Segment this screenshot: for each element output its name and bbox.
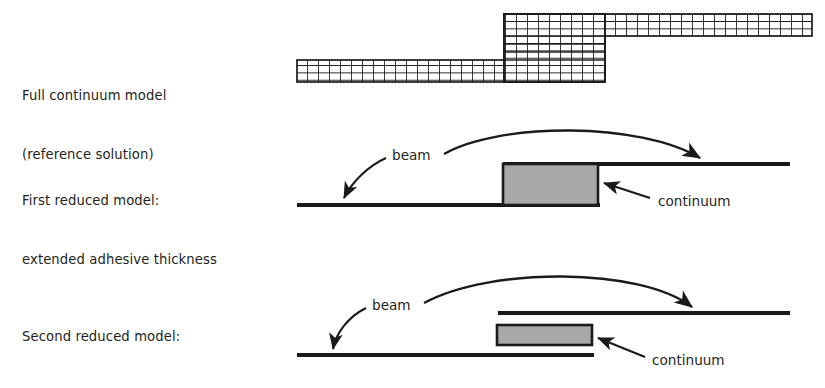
panel-first-reduced: First reduced model: extended adhesive t… — [0, 130, 825, 265]
continuum-block — [503, 164, 598, 205]
beam-arrow-upper — [424, 276, 692, 307]
full-continuum-mesh-art — [0, 0, 825, 130]
beam-arrow-lower — [344, 158, 386, 198]
first-reduced-model-art: beam continuum — [0, 130, 825, 265]
beam-arrow-lower — [333, 308, 366, 349]
annotation-beam-label: beam — [372, 297, 411, 313]
annotation-beam-label: beam — [392, 147, 431, 163]
panel-second-reduced: Second reduced model: actual adhesive th… — [0, 265, 825, 388]
figure-canvas: Full continuum model (reference solution… — [0, 0, 825, 388]
beam-arrow-upper — [444, 130, 700, 158]
annotation-continuum-label: continuum — [658, 193, 731, 209]
continuum-arrow — [604, 183, 650, 198]
second-reduced-model-art: beam continuum — [0, 265, 825, 388]
mesh-overlap-block — [504, 14, 605, 82]
panel-full-continuum: Full continuum model (reference solution… — [0, 0, 825, 130]
continuum-arrow — [598, 338, 645, 357]
continuum-block — [497, 325, 592, 345]
annotation-continuum-label: continuum — [652, 352, 725, 368]
